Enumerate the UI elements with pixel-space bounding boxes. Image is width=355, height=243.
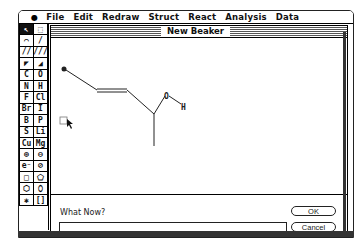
bracket-tool-icon: [] (36, 196, 46, 205)
drawing-canvas[interactable]: O H (51, 38, 347, 194)
title-bar[interactable]: New Beaker (51, 26, 347, 38)
atom-cu[interactable]: Cu (20, 138, 34, 149)
bracket-tool[interactable]: [] (34, 195, 48, 206)
bond[interactable] (66, 70, 97, 90)
wedge-bond-tool[interactable]: ◤ (20, 58, 34, 69)
electron-tool[interactable]: e⁻ (20, 161, 34, 172)
single-bond-tool-icon: / (38, 36, 43, 45)
atom-dot-icon[interactable] (62, 67, 67, 72)
menu-analysis[interactable]: Analysis (225, 12, 266, 22)
atom-f[interactable]: F (20, 92, 34, 103)
electron-tool-icon: e⁻ (22, 161, 32, 170)
marquee-select-tool-icon: ⬚ (38, 25, 43, 34)
atom-i-icon: I (38, 104, 43, 113)
hexagon-ring-tool-icon: ⬡ (23, 184, 30, 193)
hash-wedge-bond-tool-icon: ◢ (38, 59, 43, 68)
heptagon-ring-tool[interactable]: ⬯ (34, 183, 48, 194)
radical-tool-icon: ✱ (24, 196, 29, 205)
atom-mg-icon: Mg (36, 139, 46, 148)
atom-c[interactable]: C (20, 70, 34, 81)
atom-cl[interactable]: Cl (34, 92, 48, 103)
wedge-bond-tool-icon: ◤ (24, 59, 29, 68)
window-title: New Beaker (161, 26, 230, 37)
atom-mg[interactable]: Mg (34, 138, 48, 149)
menu-struct[interactable]: Struct (148, 12, 179, 22)
atom-o[interactable]: O (34, 70, 48, 81)
arrow-tool-icon: ↖ (24, 25, 29, 34)
atom-f-icon: F (24, 93, 29, 102)
triple-bond-tool-icon: /// (33, 47, 47, 56)
menu-react[interactable]: React (188, 12, 216, 22)
atom-o-label[interactable]: O (164, 92, 169, 101)
atom-br[interactable]: Br (20, 104, 34, 115)
atom-li[interactable]: Li (34, 127, 48, 138)
atom-n[interactable]: N (20, 81, 34, 92)
arrow-tool[interactable]: ↖ (20, 24, 34, 35)
atom-n-icon: N (24, 82, 29, 91)
atom-s-icon: S (24, 127, 29, 136)
square-ring-tool[interactable]: □ (20, 172, 34, 183)
screen-bottom-edge (18, 231, 354, 237)
bond[interactable] (169, 96, 181, 104)
atom-cu-icon: Cu (22, 139, 32, 148)
atom-b[interactable]: B (20, 115, 34, 126)
menu-data[interactable]: Data (276, 12, 299, 22)
hash-wedge-bond-tool[interactable]: ◢ (34, 58, 48, 69)
atom-br-icon: Br (22, 104, 32, 113)
selection-box (60, 117, 67, 124)
menu-edit[interactable]: Edit (73, 12, 93, 22)
marquee-select-tool[interactable]: ⬚ (34, 24, 48, 35)
window-shadow (343, 32, 346, 232)
triple-bond-tool[interactable]: /// (34, 47, 48, 58)
pentagon-ring-tool-icon: ⬠ (37, 173, 44, 182)
square-ring-tool-icon: □ (24, 173, 29, 182)
cursor-arrow-icon (67, 119, 73, 129)
atom-h-label[interactable]: H (181, 103, 186, 112)
lasso-tool[interactable]: ⌒ (20, 35, 34, 46)
negative-charge-tool-icon: ⊖ (38, 150, 43, 159)
screen: ● File Edit Redraw Struct React Analysis… (18, 10, 354, 238)
eraser-tool-icon: ⊘ (38, 161, 43, 170)
radical-tool[interactable]: ✱ (20, 195, 34, 206)
atom-h-icon: H (38, 82, 43, 91)
prompt-label: What Now? (60, 208, 105, 217)
bond[interactable] (127, 90, 154, 114)
pentagon-ring-tool[interactable]: ⬠ (34, 172, 48, 183)
heptagon-ring-tool-icon: ⬯ (38, 184, 43, 194)
atom-c-icon: C (24, 70, 29, 79)
menu-file[interactable]: File (46, 12, 64, 22)
atom-b-icon: B (24, 116, 29, 125)
atom-o-icon: O (38, 70, 43, 79)
single-bond-tool[interactable]: / (34, 35, 48, 46)
double-bond-tool[interactable]: // (20, 47, 34, 58)
double-bond-tool-icon: // (22, 47, 32, 56)
atom-i[interactable]: I (34, 104, 48, 115)
eraser-tool[interactable]: ⊘ (34, 161, 48, 172)
tool-palette: ↖⬚⌒//////◤◢CONHFClBrIBPSLiCuMg⊕⊖e⁻⊘□⬠⬡⬯✱… (19, 24, 49, 230)
negative-charge-tool[interactable]: ⊖ (34, 149, 48, 160)
hexagon-ring-tool[interactable]: ⬡ (20, 183, 34, 194)
positive-charge-tool[interactable]: ⊕ (20, 149, 34, 160)
ok-button[interactable]: OK (291, 206, 336, 216)
beaker-window: New Beaker O H What Now? OK Cancel (50, 25, 348, 238)
atom-h[interactable]: H (34, 81, 48, 92)
atom-cl-icon: Cl (36, 93, 46, 102)
molecule-structure[interactable] (66, 70, 181, 146)
apple-menu-icon[interactable]: ● (31, 13, 38, 22)
menu-redraw[interactable]: Redraw (102, 12, 139, 22)
atom-li-icon: Li (36, 127, 46, 136)
lasso-tool-icon: ⌒ (24, 36, 29, 45)
tool-grid: ↖⬚⌒//////◤◢CONHFClBrIBPSLiCuMg⊕⊖e⁻⊘□⬠⬡⬯✱… (19, 24, 48, 206)
positive-charge-tool-icon: ⊕ (24, 150, 29, 159)
atom-p[interactable]: P (34, 115, 48, 126)
menu-bar: ● File Edit Redraw Struct React Analysis… (19, 11, 353, 24)
atom-s[interactable]: S (20, 127, 34, 138)
prompt-divider (51, 194, 347, 195)
atom-p-icon: P (38, 116, 43, 125)
